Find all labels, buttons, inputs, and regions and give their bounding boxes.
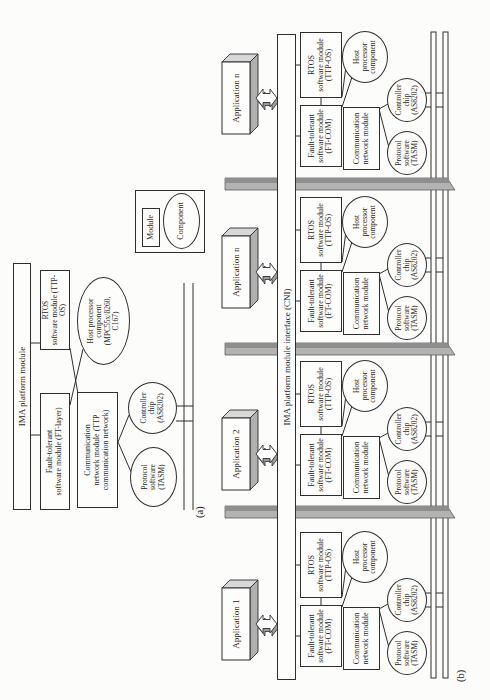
panel-b-linework bbox=[0, 0, 490, 700]
partition-divider bbox=[225, 506, 455, 518]
panel-b-label: (b) bbox=[455, 670, 466, 682]
figure-stage: IMA platform module Fault-tolerant softw… bbox=[0, 0, 490, 700]
cni-interface-bar: IMA platform module interface (CNI) bbox=[277, 34, 296, 680]
partition-divider bbox=[225, 178, 455, 190]
rotated-page: IMA platform module Fault-tolerant softw… bbox=[0, 0, 490, 700]
partition-divider bbox=[225, 343, 455, 355]
